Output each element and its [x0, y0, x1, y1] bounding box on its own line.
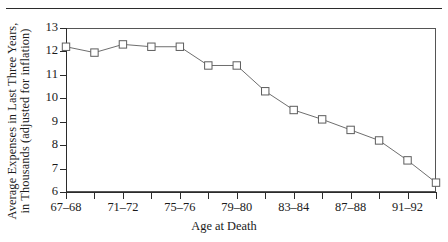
x-axis-tick-major	[180, 192, 181, 199]
y-axis-tick-label: 13	[32, 21, 58, 34]
top-horizontal-rule	[6, 8, 442, 9]
x-axis-title: Age at Death	[0, 219, 448, 234]
y-axis-title-line-1: Average Expenses in Last Three Years,	[6, 23, 19, 220]
y-axis-tick-label: 6	[32, 185, 58, 198]
x-axis-tick-label: 75–76	[150, 201, 210, 213]
y-axis-tick-label: 9	[32, 115, 58, 128]
x-axis-tick-major	[237, 192, 238, 199]
x-axis-tick-minor	[436, 192, 437, 199]
y-axis-spine	[66, 28, 67, 193]
x-axis-tick-major	[351, 192, 352, 199]
plot-area	[66, 28, 436, 192]
y-axis-tick-label: 7	[32, 162, 58, 175]
x-axis-tick-minor	[208, 192, 209, 199]
x-axis-tick-minor	[265, 192, 266, 199]
x-axis-tick-minor	[379, 192, 380, 199]
figure-container: Average Expenses in Last Three Years, in…	[0, 0, 448, 242]
x-axis-tick-label: 79–80	[207, 201, 267, 213]
x-axis-spine	[66, 192, 437, 193]
x-axis-tick-major	[294, 192, 295, 199]
x-axis-tick-major	[408, 192, 409, 199]
x-axis-tick-label: 87–88	[321, 201, 381, 213]
x-axis-tick-minor	[151, 192, 152, 199]
y-axis-tick-label: 8	[32, 138, 58, 151]
x-axis-tick-label: 91–92	[378, 201, 438, 213]
x-axis-tick-label: 67–68	[36, 201, 96, 213]
x-axis-tick-minor	[94, 192, 95, 199]
y-axis-tick-label: 10	[32, 91, 58, 104]
x-axis-tick-label: 71–72	[93, 201, 153, 213]
x-axis-tick-major	[123, 192, 124, 199]
x-axis-tick-minor	[322, 192, 323, 199]
x-axis-tick-label: 83–84	[264, 201, 324, 213]
y-axis-tick-label: 12	[32, 44, 58, 57]
y-axis-tick-label: 11	[32, 68, 58, 81]
x-axis-tick-major	[66, 192, 67, 199]
